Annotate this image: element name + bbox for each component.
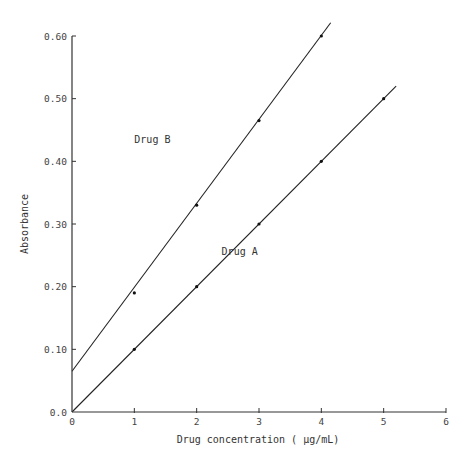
drug-b-data-point bbox=[195, 204, 198, 207]
y-tick-label: 0.0 bbox=[50, 407, 67, 418]
axes: 01234560.00.100.200.300.400.500.60 bbox=[44, 31, 449, 428]
y-tick-label: 0.50 bbox=[44, 93, 67, 104]
x-tick-label: 6 bbox=[443, 416, 449, 427]
drug-a-data-point bbox=[257, 222, 260, 225]
y-tick-label: 0.60 bbox=[44, 31, 67, 42]
drug-a-data-point bbox=[133, 348, 136, 351]
plot-area: Drug ADrug B bbox=[72, 23, 396, 412]
y-tick-label: 0.40 bbox=[44, 156, 67, 167]
x-tick-label: 3 bbox=[256, 416, 262, 427]
drug-a-data-point bbox=[382, 97, 385, 100]
y-axis-title: Absorbance bbox=[19, 194, 30, 254]
x-tick-label: 4 bbox=[318, 416, 324, 427]
labels: Drug concentration ( μg/mL) Absorbance bbox=[19, 194, 339, 445]
series-drug-b: Drug B bbox=[72, 23, 331, 371]
drug-b-data-point bbox=[320, 34, 323, 37]
y-tick-label: 0.20 bbox=[44, 281, 67, 292]
calibration-chart: Drug ADrug B 01234560.00.100.200.300.400… bbox=[0, 0, 470, 465]
drug-b-label: Drug B bbox=[134, 134, 170, 145]
drug-a-data-point bbox=[320, 160, 323, 163]
x-tick-label: 0 bbox=[69, 416, 75, 427]
drug-a-label: Drug A bbox=[222, 246, 258, 257]
x-tick-label: 2 bbox=[194, 416, 200, 427]
drug-b-fit-line bbox=[72, 23, 331, 371]
drug-a-data-point bbox=[195, 285, 198, 288]
drug-b-data-point bbox=[133, 291, 136, 294]
drug-b-data-point bbox=[257, 119, 260, 122]
y-tick-label: 0.30 bbox=[44, 219, 67, 230]
x-tick-label: 1 bbox=[131, 416, 137, 427]
x-axis-title: Drug concentration ( μg/mL) bbox=[177, 434, 340, 445]
x-tick-label: 5 bbox=[381, 416, 387, 427]
y-tick-label: 0.10 bbox=[44, 344, 67, 355]
series-drug-a: Drug A bbox=[72, 86, 396, 412]
